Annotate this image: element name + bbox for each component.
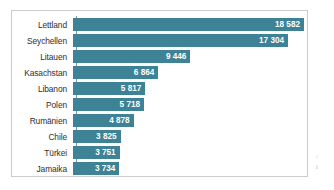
- bar-track: 3 825: [72, 129, 307, 144]
- bar: 18 582: [73, 18, 304, 31]
- bar-track: 3 751: [72, 145, 307, 160]
- bar-row: Litauen9 446: [12, 49, 307, 64]
- bar: 5 718: [73, 98, 144, 111]
- bar-value-label: 3 751: [95, 148, 120, 157]
- bar-row: Kasachstan6 864: [12, 65, 307, 80]
- bar: 4 878: [73, 114, 134, 127]
- margin-mark: /: [316, 152, 332, 162]
- bar-track: 6 864: [72, 65, 307, 80]
- bar-row-list: Lettland18 582Seychellen17 304Litauen9 4…: [12, 17, 307, 176]
- bar-category-label: Jamaika: [12, 164, 72, 174]
- bar-value-label: 6 864: [134, 68, 159, 77]
- bar-value-label: 5 718: [120, 100, 145, 109]
- bar: 3 825: [73, 130, 121, 143]
- bar-category-label: Rumänien: [12, 116, 72, 126]
- bar-category-label: Chile: [12, 132, 72, 142]
- bar-category-label: Litauen: [12, 52, 72, 62]
- bar-row: Türkei3 751: [12, 145, 307, 160]
- bar-value-label: 3 825: [96, 132, 121, 141]
- bar-row: Libanon5 817: [12, 81, 307, 96]
- bar-row: Seychellen17 304: [12, 33, 307, 48]
- margin-mark: i: [316, 162, 332, 172]
- bar-category-label: Libanon: [12, 84, 72, 94]
- bar-row: Jamaika3 734: [12, 161, 307, 176]
- bar-category-label: Polen: [12, 100, 72, 110]
- bar-track: 5 718: [72, 97, 307, 112]
- bar-value-label: 5 817: [121, 84, 146, 93]
- bar-category-label: Lettland: [12, 20, 72, 30]
- bar-track: 17 304: [72, 33, 307, 48]
- bar: 5 817: [73, 82, 145, 95]
- bar-value-label: 9 446: [166, 52, 191, 61]
- bar-track: 4 878: [72, 113, 307, 128]
- bar: 6 864: [73, 66, 158, 79]
- bar: 3 734: [73, 162, 119, 175]
- bar: 17 304: [73, 34, 288, 47]
- bar: 3 751: [73, 146, 120, 159]
- bar-track: 3 734: [72, 161, 307, 176]
- bar-value-label: 17 304: [259, 36, 288, 45]
- bar-row: Polen5 718: [12, 97, 307, 112]
- bar-track: 9 446: [72, 49, 307, 64]
- bar: 9 446: [73, 50, 190, 63]
- bar-row: Lettland18 582: [12, 17, 307, 32]
- bar-row: Chile3 825: [12, 129, 307, 144]
- bar-track: 5 817: [72, 81, 307, 96]
- bar-value-label: 4 878: [109, 116, 134, 125]
- chart-frame: Lettland18 582Seychellen17 304Litauen9 4…: [11, 10, 308, 177]
- bar-row: Rumänien4 878: [12, 113, 307, 128]
- bar-category-label: Seychellen: [12, 36, 72, 46]
- bar-category-label: Türkei: [12, 148, 72, 158]
- bar-category-label: Kasachstan: [12, 68, 72, 78]
- bar-value-label: 3 734: [95, 164, 120, 173]
- page-margin-marks: /i: [316, 152, 332, 180]
- bar-track: 18 582: [72, 17, 307, 32]
- bar-chart-plot-area: Lettland18 582Seychellen17 304Litauen9 4…: [12, 11, 307, 176]
- bar-value-label: 18 582: [275, 20, 304, 29]
